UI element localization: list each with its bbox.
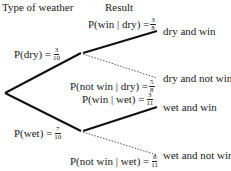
label-win-given-wet: P(win | wet) =311 — [82, 93, 154, 108]
label-text: P(win | wet) = — [82, 93, 144, 105]
header-type-of-weather: Type of weather — [2, 1, 73, 13]
label-text: P(not win | wet) = — [70, 155, 149, 167]
label-dry: P(dry) =310 — [14, 48, 61, 63]
outcome-wet-win: wet and win — [163, 101, 217, 113]
branch-wet-win — [83, 107, 157, 131]
outcome-dry-win: dry and win — [163, 25, 216, 37]
outcome-wet-notwin: wet and not win — [163, 149, 231, 161]
label-win-given-dry: P(win | dry) =38 — [88, 18, 156, 33]
branch-dry-notwin — [83, 54, 157, 78]
label-text: P(not win | dry) = — [70, 80, 148, 92]
fraction: 310 — [52, 47, 61, 62]
fraction: 811 — [150, 154, 159, 169]
fraction: 38 — [150, 17, 156, 32]
label-wet: P(wet) =710 — [14, 127, 62, 142]
label-text: P(wet) = — [14, 127, 52, 139]
branch-dry-win — [83, 31, 157, 53]
label-text: P(win | dry) = — [88, 18, 149, 30]
label-text: P(dry) = — [14, 48, 51, 60]
fraction: 311 — [145, 92, 154, 107]
fraction: 710 — [53, 126, 62, 141]
header-result: Result — [105, 1, 133, 13]
branch-wet-notwin — [83, 132, 157, 155]
label-notwin-given-wet: P(not win | wet) =811 — [70, 155, 159, 170]
branch-wet — [5, 93, 81, 131]
outcome-dry-notwin: dry and not win — [163, 72, 231, 84]
